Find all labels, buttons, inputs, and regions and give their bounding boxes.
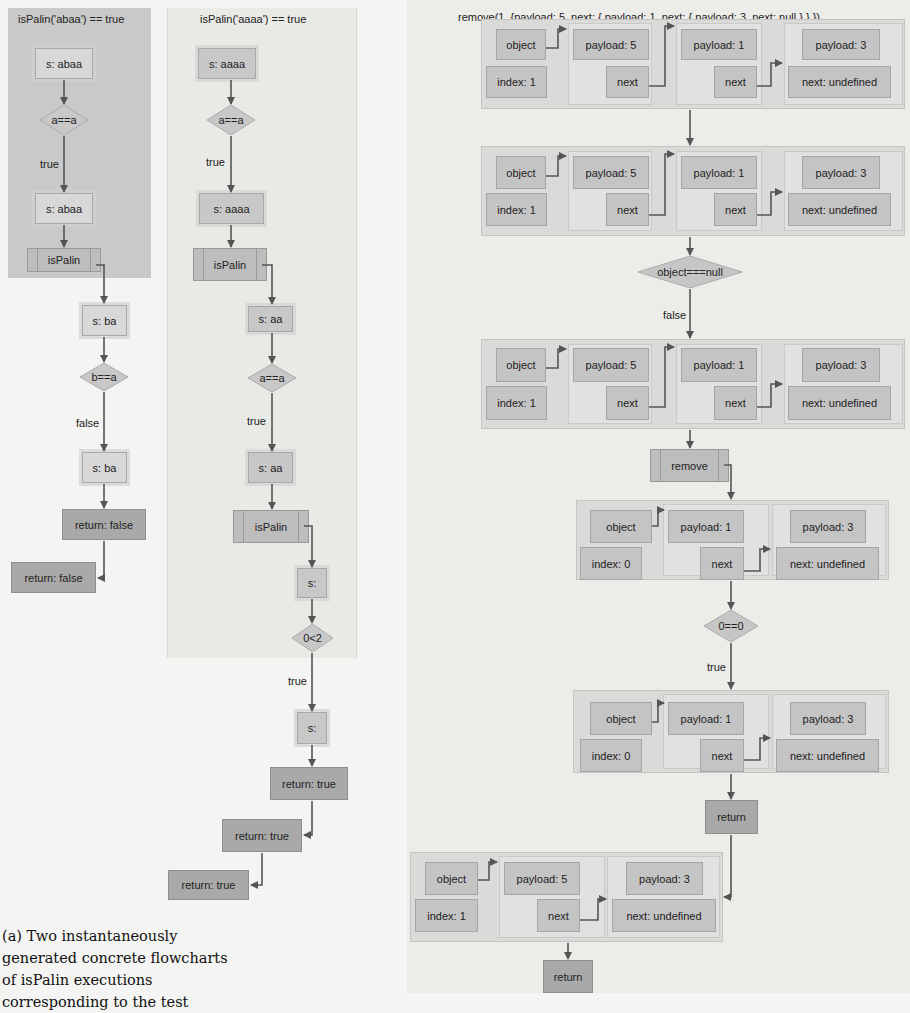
- branch-label-true: true: [206, 156, 225, 168]
- statement-node: s:: [297, 712, 327, 744]
- branch-label-false: false: [663, 309, 686, 321]
- payload-cell: payload: 1: [681, 348, 757, 382]
- payload-cell: payload: 1: [668, 510, 744, 543]
- statement-node: s: abaa: [35, 48, 93, 79]
- payload-cell: payload: 1: [668, 702, 744, 735]
- branch-label-true: true: [247, 415, 266, 427]
- next-cell: next: [714, 66, 757, 98]
- return-node: return: true: [168, 870, 249, 900]
- statement-node: s: aa: [248, 452, 293, 483]
- statement-node: s:: [297, 568, 327, 598]
- statement-node: s: aaaa: [198, 48, 256, 79]
- next-undefined-cell: next: undefined: [776, 739, 879, 772]
- decision-node-object-null: object===null: [638, 256, 742, 288]
- next-cell: next: [700, 739, 744, 772]
- statement-node: s: abaa: [35, 193, 93, 224]
- branch-label-true: true: [288, 675, 307, 687]
- call-node-remove: remove: [650, 449, 729, 482]
- index-cell: index: 1: [486, 193, 547, 226]
- object-cell: object: [496, 348, 546, 382]
- statement-node: s: ba: [82, 452, 127, 483]
- index-cell: index: 1: [486, 386, 547, 420]
- decision-node: a==a: [40, 105, 88, 135]
- payload-cell: payload: 5: [573, 348, 649, 382]
- next-undefined-cell: next: undefined: [788, 66, 891, 98]
- object-cell: object: [425, 862, 478, 895]
- payload-cell: payload: 3: [790, 702, 866, 735]
- index-cell: index: 0: [580, 739, 642, 772]
- next-cell: next: [714, 193, 757, 226]
- call-node-ispalin: isPalin: [27, 248, 101, 272]
- next-cell: next: [714, 386, 757, 420]
- branch-label-true: true: [707, 661, 726, 673]
- middle-flowchart-title: isPalin('aaaa') == true: [200, 13, 306, 25]
- object-cell: object: [590, 510, 652, 543]
- return-node: return: [705, 800, 758, 834]
- next-undefined-cell: next: undefined: [788, 193, 891, 226]
- object-cell: object: [496, 156, 546, 189]
- payload-cell: payload: 5: [573, 156, 649, 189]
- payload-cell: payload: 3: [802, 29, 880, 60]
- payload-cell: payload: 3: [790, 510, 866, 543]
- next-cell: next: [606, 386, 649, 420]
- payload-cell: payload: 5: [573, 29, 649, 60]
- middle-flowchart-panel: [167, 8, 357, 658]
- figure-caption: (a) Two instantaneously generated concre…: [2, 925, 242, 1013]
- payload-cell: payload: 1: [681, 29, 757, 60]
- object-cell: object: [590, 702, 652, 735]
- object-cell: object: [496, 29, 546, 60]
- decision-node: a==a: [207, 105, 255, 135]
- decision-node-zero-equals-zero: 0==0: [704, 610, 758, 642]
- payload-cell: payload: 5: [504, 862, 580, 895]
- next-cell: next: [606, 193, 649, 226]
- next-undefined-cell: next: undefined: [788, 386, 891, 420]
- left-flowchart-title: isPalin('abaa') == true: [18, 13, 124, 25]
- payload-cell: payload: 1: [681, 156, 757, 189]
- statement-node: s: aaaa: [199, 193, 264, 224]
- branch-label-true: true: [40, 158, 59, 170]
- return-node: return: false: [11, 562, 96, 593]
- decision-node: 0<2: [292, 624, 333, 652]
- statement-node: s: aa: [248, 306, 293, 332]
- payload-cell: payload: 3: [802, 156, 880, 189]
- payload-cell: payload: 3: [626, 862, 703, 895]
- payload-cell: payload: 3: [802, 348, 880, 382]
- index-cell: index: 1: [486, 66, 547, 98]
- decision-node: b==a: [80, 363, 128, 391]
- index-cell: index: 0: [580, 547, 642, 580]
- call-node-ispalin: isPalin: [193, 248, 267, 281]
- decision-node: a==a: [248, 364, 296, 392]
- next-undefined-cell: next: undefined: [776, 547, 879, 580]
- index-cell: index: 1: [415, 899, 478, 932]
- next-cell: next: [700, 547, 744, 580]
- statement-node: s: ba: [82, 305, 127, 336]
- return-node: return: [543, 960, 593, 993]
- return-node: return: true: [270, 767, 348, 800]
- return-node: return: false: [62, 509, 146, 540]
- return-node: return: true: [222, 819, 302, 852]
- next-undefined-cell: next: undefined: [612, 899, 716, 932]
- next-cell: next: [606, 66, 649, 98]
- next-cell: next: [537, 899, 580, 932]
- call-node-ispalin: isPalin: [233, 510, 309, 543]
- branch-label-false: false: [76, 417, 99, 429]
